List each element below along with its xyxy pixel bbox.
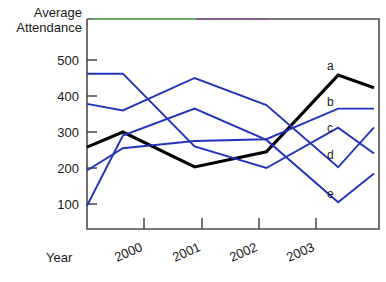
series-label-c: c <box>327 121 333 135</box>
x-tick-label-2002: 2002 <box>227 239 260 264</box>
y-axis-title: Average Attendance <box>16 5 82 35</box>
y-tick-label-500: 500 <box>57 53 79 68</box>
y-axis-title-line2: Attendance <box>16 20 82 35</box>
x-tick-label-2000: 2000 <box>112 239 145 264</box>
series-label-a: a <box>327 59 334 73</box>
y-tick-label-300: 300 <box>57 125 79 140</box>
y-axis-ticks <box>87 60 97 204</box>
x-axis-tick-labels: 2000 2001 2002 2003 <box>112 239 317 264</box>
series-label-e: e <box>327 187 334 201</box>
line-chart: 500 400 300 200 100 Average Attendance 2… <box>0 0 386 282</box>
x-axis-title: Year <box>46 250 73 265</box>
y-axis-title-line1: Average <box>34 5 82 20</box>
series-group <box>87 74 374 206</box>
plot-area-border <box>87 19 379 229</box>
x-tick-label-2003: 2003 <box>284 239 317 264</box>
y-tick-label-400: 400 <box>57 89 79 104</box>
x-axis-ticks <box>144 218 316 229</box>
y-tick-label-100: 100 <box>57 197 79 212</box>
x-tick-label-2001: 2001 <box>170 239 203 264</box>
y-tick-label-200: 200 <box>57 161 79 176</box>
chart-canvas: 500 400 300 200 100 Average Attendance 2… <box>0 0 386 282</box>
y-axis-tick-labels: 500 400 300 200 100 <box>57 53 79 212</box>
series-label-b: b <box>327 95 334 109</box>
series-label-d: d <box>327 148 334 162</box>
